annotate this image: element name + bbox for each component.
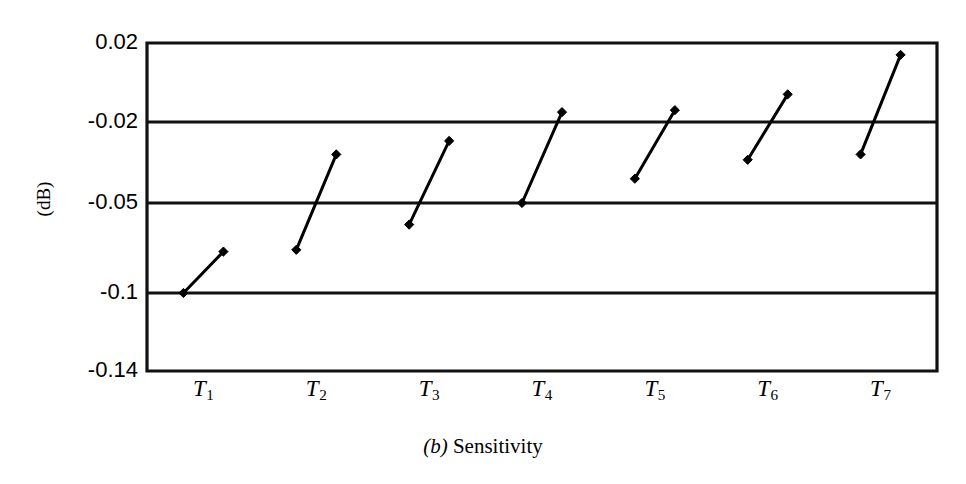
x-tick-label: T4 — [502, 376, 582, 408]
x-tick-base: T — [757, 376, 770, 401]
x-tick-label: T7 — [841, 376, 921, 408]
x-tick-subscript: 1 — [206, 386, 214, 403]
x-tick-subscript: 4 — [545, 386, 553, 403]
x-tick-base: T — [193, 376, 206, 401]
x-tick-label: T1 — [163, 376, 243, 408]
figure-sensitivity-chart: (dB) 0.02 -0.02 -0.05 -0.1 -0.14 T1T2T3T… — [0, 0, 966, 484]
x-tick-base: T — [532, 376, 545, 401]
x-tick-subscript: 6 — [771, 386, 779, 403]
x-tick-label: T3 — [389, 376, 469, 408]
x-tick-label: T5 — [615, 376, 695, 408]
x-tick-base: T — [644, 376, 657, 401]
x-tick-subscript: 7 — [883, 386, 891, 403]
x-tick-subscript: 3 — [432, 386, 440, 403]
x-tick-label: T6 — [728, 376, 808, 408]
x-tick-subscript: 2 — [319, 386, 327, 403]
x-tick-base: T — [306, 376, 319, 401]
x-tick-base: T — [419, 376, 432, 401]
x-tick-subscript: 5 — [658, 386, 666, 403]
x-tick-base: T — [870, 376, 883, 401]
figure-caption: (b) Sensitivity — [0, 434, 966, 459]
caption-text: Sensitivity — [453, 434, 543, 458]
caption-letter: (b) — [423, 434, 448, 458]
x-axis-tick-labels: T1T2T3T4T5T6T7 — [0, 0, 966, 484]
x-tick-label: T2 — [276, 376, 356, 408]
